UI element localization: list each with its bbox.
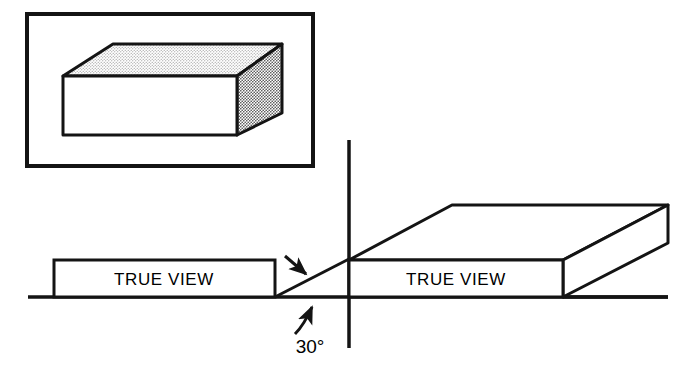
right-true-view-label: TRUE VIEW <box>406 270 506 289</box>
left-true-view-rectangle: TRUE VIEW <box>54 260 275 297</box>
thirty-degree-receding-axis <box>275 259 349 297</box>
technical-drawing-canvas: TRUE VIEW 30° TRUE VIEW <box>0 0 692 377</box>
left-true-view-label: TRUE VIEW <box>114 270 214 289</box>
axis-pointer-arrow <box>285 256 306 274</box>
angle-pointer-arrow <box>295 307 312 334</box>
diagram-svg: TRUE VIEW 30° TRUE VIEW <box>0 0 692 377</box>
oblique-projection-solid: TRUE VIEW <box>349 205 668 297</box>
angle-label: 30° <box>296 336 325 357</box>
prism-front-face <box>63 76 237 135</box>
rectangular-prism <box>63 44 282 135</box>
